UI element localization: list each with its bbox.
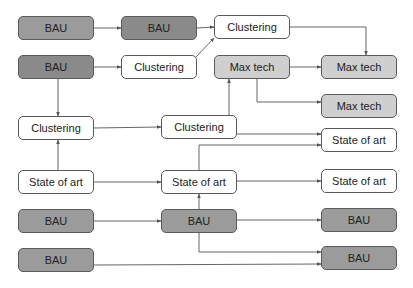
arrow-connector: [257, 79, 321, 102]
node-bau: BAU: [121, 16, 197, 40]
node-label: State of art: [172, 176, 226, 188]
node-bau: BAU: [18, 209, 94, 233]
node-clustering: Clustering: [161, 115, 237, 139]
arrow-connector: [199, 233, 321, 252]
arrow-connector: [94, 264, 321, 265]
arrow-connector: [290, 27, 366, 55]
node-state-of-art: State of art: [321, 169, 397, 193]
arrow-connector: [197, 27, 214, 28]
node-label: BAU: [188, 215, 211, 227]
node-bau: BAU: [18, 248, 94, 272]
node-label: Max tech: [230, 61, 275, 73]
node-clustering: Clustering: [18, 116, 94, 140]
node-bau: BAU: [161, 209, 237, 233]
node-label: State of art: [332, 175, 386, 187]
arrow-connector: [199, 145, 321, 170]
node-label: Max tech: [337, 61, 382, 73]
flow-diagram: BAUBAUClusteringBAUClusteringMax techMax…: [0, 0, 413, 288]
node-state-of-art: State of art: [18, 170, 94, 194]
node-bau: BAU: [321, 246, 397, 270]
node-max-tech: Max tech: [214, 55, 290, 79]
node-label: BAU: [348, 214, 371, 226]
node-max-tech: Max tech: [321, 55, 397, 79]
node-label: BAU: [45, 215, 68, 227]
node-label: Clustering: [31, 122, 81, 134]
node-max-tech: Max tech: [321, 94, 397, 118]
node-label: Clustering: [174, 121, 224, 133]
node-clustering: Clustering: [214, 15, 290, 39]
node-label: BAU: [45, 61, 68, 73]
node-bau: BAU: [18, 16, 94, 40]
node-clustering: Clustering: [121, 55, 197, 79]
node-state-of-art: State of art: [321, 128, 397, 152]
node-label: BAU: [148, 22, 171, 34]
node-label: Clustering: [134, 61, 184, 73]
node-bau: BAU: [321, 208, 397, 232]
node-bau: BAU: [18, 55, 94, 79]
node-label: BAU: [348, 252, 371, 264]
node-label: State of art: [29, 176, 83, 188]
node-state-of-art: State of art: [161, 170, 237, 194]
node-label: Clustering: [227, 21, 277, 33]
node-label: BAU: [45, 22, 68, 34]
node-label: Max tech: [337, 100, 382, 112]
node-label: BAU: [45, 254, 68, 266]
node-label: State of art: [332, 134, 386, 146]
arrow-connector: [196, 38, 214, 57]
arrow-connector: [94, 127, 161, 128]
